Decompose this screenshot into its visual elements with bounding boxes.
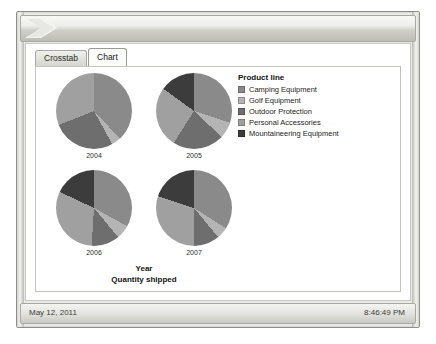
tab-crosstab[interactable]: Crosstab	[35, 50, 87, 66]
measure-title: Quantity shipped	[46, 274, 242, 285]
window-frame-left-edge	[17, 12, 24, 327]
pie-panel-2007[interactable]: 2007	[148, 170, 240, 262]
legend-item[interactable]: Mountaineering Equipment	[238, 128, 398, 139]
legend-swatch-icon	[238, 86, 245, 93]
legend-item[interactable]: Golf Equipment	[238, 95, 398, 106]
pie-chart-grid: 2004 2005 2006 2007	[46, 73, 238, 263]
legend-item-label: Camping Equipment	[249, 85, 317, 94]
legend-swatch-icon	[238, 97, 245, 104]
x-axis-title: Year	[46, 263, 242, 274]
chart-legend: Product line Camping EquipmentGolf Equip…	[238, 73, 398, 139]
pie-panel-2004[interactable]: 2004	[48, 73, 140, 165]
chart-panel: 2004 2005 2006 2007 Year Quantit	[35, 66, 401, 292]
legend-title: Product line	[238, 73, 398, 82]
legend-swatch-icon	[238, 119, 245, 126]
legend-item-label: Outdoor Protection	[249, 107, 312, 116]
legend-rows: Camping EquipmentGolf EquipmentOutdoor P…	[238, 84, 398, 139]
pie-disc	[156, 170, 232, 246]
pie-panel-label: 2005	[148, 152, 240, 159]
legend-swatch-icon	[238, 108, 245, 115]
pie-panel-label: 2007	[148, 249, 240, 256]
tab-strip: Crosstab Chart	[35, 50, 128, 66]
pie-panel-2006[interactable]: 2006	[48, 170, 140, 262]
axis-titles: Year Quantity shipped	[46, 263, 242, 285]
legend-item-label: Personal Accessories	[249, 118, 321, 127]
legend-item-label: Golf Equipment	[249, 96, 301, 105]
window-frame-right-edge	[412, 12, 419, 327]
legend-item[interactable]: Personal Accessories	[238, 117, 398, 128]
chevron-right-icon	[23, 16, 75, 41]
pie-disc	[56, 73, 132, 149]
pie-disc	[56, 170, 132, 246]
client-area: Crosstab Chart 2004 2005 2006	[25, 43, 411, 301]
pie-panel-label: 2006	[48, 249, 140, 256]
legend-item-label: Mountaineering Equipment	[249, 129, 339, 138]
legend-swatch-icon	[238, 130, 245, 137]
status-time: 8:46:49 PM	[364, 308, 405, 317]
title-bar[interactable]	[20, 15, 416, 42]
pie-panel-2005[interactable]: 2005	[148, 73, 240, 165]
tab-chart[interactable]: Chart	[88, 48, 127, 66]
legend-item[interactable]: Outdoor Protection	[238, 106, 398, 117]
pie-disc	[156, 73, 232, 149]
legend-item[interactable]: Camping Equipment	[238, 84, 398, 95]
status-bar: May 12, 2011 8:46:49 PM	[20, 303, 416, 324]
pie-panel-label: 2004	[48, 152, 140, 159]
application-window: Crosstab Chart 2004 2005 2006	[16, 11, 420, 328]
status-date: May 12, 2011	[29, 308, 77, 317]
